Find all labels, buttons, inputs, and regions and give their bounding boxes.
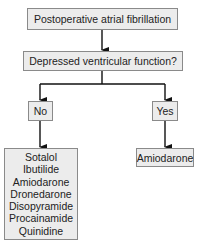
question-label: Depressed ventricular function? [29, 55, 177, 67]
root-node: Postoperative atrial fibrillation [27, 8, 178, 30]
drug-item: Dronedarone [10, 188, 71, 200]
no-drug-list: Sotalol Ibutilide Amiodarone Dronedarone… [4, 148, 78, 240]
yes-label: Yes [156, 105, 173, 117]
drug-item: Amiodarone [13, 176, 70, 188]
no-node: No [28, 101, 53, 121]
drug-item: Procainamide [9, 212, 73, 224]
drug-item: Sotalol [25, 151, 57, 163]
yes-node: Yes [152, 101, 178, 121]
drug-item: Quinidine [19, 225, 63, 237]
drug-item: Ibutilide [23, 163, 59, 175]
drug-item: Amiodarone [137, 152, 194, 164]
no-label: No [34, 105, 47, 117]
yes-drug-list: Amiodarone [136, 148, 194, 167]
question-node: Depressed ventricular function? [23, 51, 183, 71]
root-label: Postoperative atrial fibrillation [34, 13, 171, 25]
drug-item: Disopyramide [9, 200, 73, 212]
